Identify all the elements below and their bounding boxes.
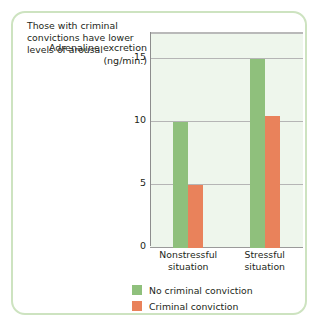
plot-area bbox=[150, 32, 303, 248]
x-axis-label-1: Stressfulsituation bbox=[227, 249, 304, 272]
bar-0-0 bbox=[173, 122, 188, 248]
x-axis-labels: NonstressfulsituationStressfulsituation bbox=[150, 249, 303, 279]
legend-swatch-icon bbox=[132, 285, 142, 295]
y-tick-label-5: 5 bbox=[118, 178, 146, 188]
x-label-line: situation bbox=[150, 261, 227, 273]
x-label-line: Stressful bbox=[227, 249, 304, 261]
x-axis-label-0: Nonstressfulsituation bbox=[150, 249, 227, 272]
legend-label: No criminal conviction bbox=[149, 285, 253, 296]
x-label-line: Nonstressful bbox=[150, 249, 227, 261]
legend-swatch-icon bbox=[132, 301, 142, 311]
y-tick-label-10: 10 bbox=[118, 115, 146, 125]
figure-card: Adrenaline excretion (ng/min.) 051015 Th… bbox=[11, 11, 307, 315]
y-axis-ticks: 051015 bbox=[116, 32, 146, 246]
chart-legend: No criminal convictionCriminal convictio… bbox=[132, 283, 302, 315]
bar-1-0 bbox=[250, 59, 265, 248]
bar-0-1 bbox=[188, 185, 203, 248]
y-tick-label-0: 0 bbox=[118, 241, 146, 251]
x-label-line: situation bbox=[227, 261, 304, 273]
chart-annotation: Those with criminal convictions have low… bbox=[27, 20, 153, 57]
legend-label: Criminal conviction bbox=[149, 301, 238, 312]
gridline-15 bbox=[150, 58, 303, 59]
legend-item-0: No criminal conviction bbox=[132, 283, 302, 297]
plot-inner bbox=[150, 34, 303, 248]
y-axis-line bbox=[150, 32, 151, 246]
legend-item-1: Criminal conviction bbox=[132, 299, 302, 313]
bar-1-1 bbox=[265, 116, 280, 248]
